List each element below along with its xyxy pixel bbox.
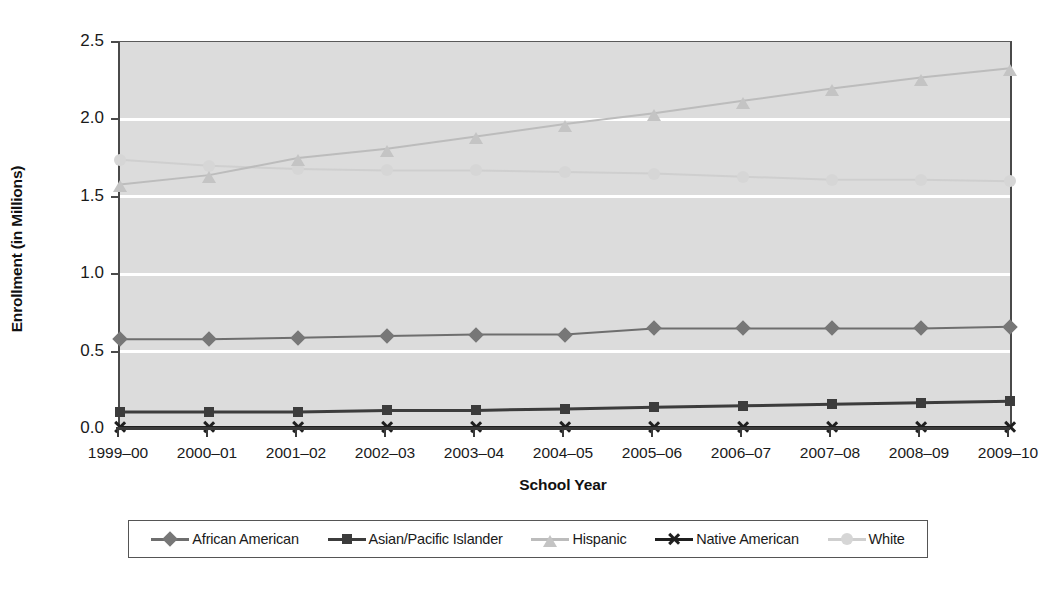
legend-swatch [328,531,366,547]
data-point-marker [825,84,839,96]
triangle-marker-icon [543,535,557,547]
data-point-marker [560,404,570,414]
data-point-marker [915,174,927,186]
plot-area [118,41,1012,429]
x-axis-title: School Year [118,476,1008,494]
data-point-marker [738,401,748,411]
data-point-marker [916,398,926,408]
data-point-marker [382,405,392,415]
legend-item-white[interactable]: White [828,531,905,547]
x-axis-tick [651,428,653,437]
x-axis-tick [206,428,208,437]
legend-swatch [828,531,866,547]
data-point-marker [914,74,928,86]
data-point-marker [293,407,303,417]
data-point-marker [291,154,305,166]
y-axis-tick-label: 0.5 [52,342,104,359]
x-axis-tick [562,428,564,437]
x-axis-tick [1007,428,1009,437]
data-point-marker [203,160,215,172]
x-axis-tick [473,428,475,437]
y-axis-tick-label: 2.0 [52,109,104,126]
chart-legend: African AmericanAsian/Pacific IslanderHi… [128,520,928,558]
x-axis-tick [918,428,920,437]
data-point-marker [1003,64,1017,76]
data-point-marker [470,164,482,176]
data-point-marker [647,109,661,121]
x-axis-tick [117,428,119,437]
data-point-marker [469,132,483,144]
legend-item-native-american[interactable]: Native American [655,531,799,547]
data-point-marker [649,402,659,412]
legend-label: White [869,531,905,547]
data-point-marker [114,154,126,166]
data-point-marker [1004,175,1016,187]
legend-swatch [531,531,569,547]
legend-item-african-american[interactable]: African American [151,531,298,547]
x-axis-tick [295,428,297,437]
legend-label: Native American [696,531,799,547]
data-point-marker [1005,396,1015,406]
x-axis-tick [740,428,742,437]
data-point-marker [204,407,214,417]
data-point-marker [471,405,481,415]
x-axis-tick-label: 2009–10 [956,444,1055,461]
legend-item-hispanic[interactable]: Hispanic [531,531,626,547]
legend-swatch [151,531,189,547]
plot-inner [120,42,1010,429]
line-chart: Enrollment (in Millions) 0.00.51.01.52.0… [0,0,1055,594]
data-point-marker [115,407,125,417]
series-lines [120,42,1010,429]
data-point-marker [381,164,393,176]
y-axis-tick-label: 1.5 [52,187,104,204]
x-axis-tick [384,428,386,437]
legend-swatch [655,531,693,547]
diamond-marker-icon [163,531,179,547]
circle-marker-icon [841,533,853,545]
y-axis-tick-label: 2.5 [52,32,104,49]
data-point-marker [648,168,660,180]
square-marker-icon [342,534,352,544]
y-axis-tick-label: 0.0 [52,419,104,436]
y-axis-tick-label: 1.0 [52,264,104,281]
data-point-marker [202,171,216,183]
data-point-marker [380,145,394,157]
data-point-marker [113,180,127,192]
legend-label: African American [192,531,298,547]
data-point-marker [558,120,572,132]
x-axis-tick [829,428,831,437]
x-marker-icon [667,532,681,546]
data-point-marker [737,171,749,183]
data-point-marker [559,166,571,178]
data-point-marker [826,174,838,186]
legend-item-asian-pacific-islander[interactable]: Asian/Pacific Islander [328,531,503,547]
data-point-marker [827,399,837,409]
legend-label: Asian/Pacific Islander [369,531,503,547]
legend-label: Hispanic [572,531,626,547]
data-point-marker [736,97,750,109]
y-axis-title: Enrollment (in Millions) [0,34,34,464]
